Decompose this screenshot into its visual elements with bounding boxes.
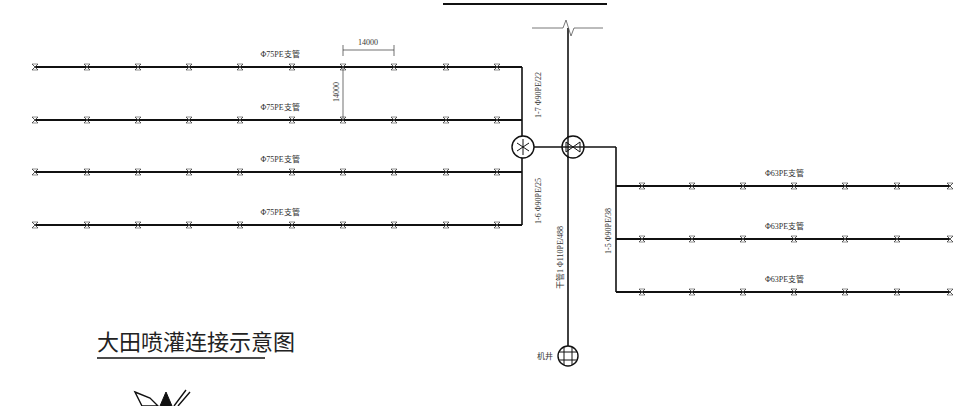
- sprinkler-emblem-icon: [135, 390, 190, 406]
- dimension-horizontal: 14000: [343, 38, 394, 56]
- pipe-label-main: 干管1 Φ110PE/488: [555, 226, 565, 289]
- branch-label: Φ63PE支管: [765, 221, 804, 231]
- branch-pipe: Φ63PE支管: [616, 221, 953, 242]
- dimension-vertical: 14000: [332, 67, 343, 120]
- branch-pipe: Φ63PE支管: [616, 168, 953, 189]
- branch-label: Φ75PE支管: [261, 154, 300, 164]
- pipe-label-1-7: 1-7 Φ90PE/22: [534, 72, 543, 118]
- branch-pipe: Φ63PE支管: [616, 274, 953, 295]
- svg-text:14000: 14000: [332, 82, 341, 102]
- pipe-label-1-5: 1-5 Φ90PE/38: [604, 208, 613, 254]
- right-branch-group: Φ63PE支管Φ63PE支管Φ63PE支管: [616, 168, 953, 295]
- branch-pipe: Φ75PE支管: [32, 49, 522, 70]
- well-label: 机井: [537, 351, 553, 361]
- left-branch-group: Φ75PE支管Φ75PE支管Φ75PE支管Φ75PE支管: [32, 49, 522, 228]
- branch-pipe: Φ75PE支管: [32, 207, 522, 228]
- valve-icon-main: [562, 136, 584, 158]
- svg-text:14000: 14000: [358, 38, 378, 47]
- branch-pipe: Φ75PE支管: [32, 102, 522, 123]
- branch-pipe: Φ75PE支管: [32, 154, 522, 175]
- branch-label: Φ75PE支管: [261, 49, 300, 59]
- valve-icon-left: [512, 136, 534, 158]
- pipe-label-1-6: 1-6 Φ90PE/25: [534, 178, 543, 224]
- branch-label: Φ75PE支管: [261, 102, 300, 112]
- branch-label: Φ63PE支管: [765, 168, 804, 178]
- irrigation-diagram: Φ75PE支管Φ75PE支管Φ75PE支管Φ75PE支管 Φ63PE支管Φ63P…: [0, 0, 978, 406]
- well-icon: [558, 346, 578, 366]
- diagram-title: 大田喷灌连接示意图: [97, 330, 295, 355]
- branch-label: Φ63PE支管: [765, 274, 804, 284]
- branch-label: Φ75PE支管: [261, 207, 300, 217]
